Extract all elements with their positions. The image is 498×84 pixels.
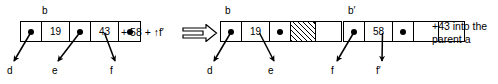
node-b-prime-pointer-1 [393, 22, 414, 41]
pointer-dot-icon [351, 29, 357, 35]
pointer-dot-icon [77, 29, 83, 35]
node-b-pointer-1 [70, 22, 91, 41]
node-b-pointer-0 [21, 22, 42, 41]
annotation-insert-58: + 58 + ↑f′ [121, 26, 164, 39]
node-b-after: 19 [220, 21, 342, 42]
leaf-label-f: f [110, 66, 113, 76]
leaf-label-d: d [7, 66, 13, 76]
double-right-arrow-icon [182, 24, 218, 46]
annotation-promote-43-line2: parent a [432, 33, 471, 46]
annotation-promote-43-line1: +43 into the [432, 20, 487, 33]
pointer-arrows [0, 0, 498, 84]
node-b-key-0: 19 [42, 22, 70, 41]
leaf-label-f-after: f [331, 66, 334, 76]
node-label-b-after: b [225, 6, 231, 16]
node-b-after-hatched-slot [291, 22, 316, 41]
pointer-dot-icon [400, 29, 406, 35]
node-label-b: b [42, 6, 48, 16]
leaf-label-f-prime: f′ [376, 66, 381, 76]
node-b-prime-key-0: 58 [365, 22, 393, 41]
node-b-after-key-0: 19 [242, 22, 270, 41]
node-b-after-pointer-1 [270, 22, 291, 41]
node-b-after-empty-slot [316, 22, 341, 41]
node-b-after-pointer-0 [221, 22, 242, 41]
node-b-prime-pointer-0 [344, 22, 365, 41]
leaf-label-e-after: e [268, 66, 274, 76]
node-b-key-1: 43 [91, 22, 119, 41]
pointer-dot-icon [28, 29, 34, 35]
leaf-label-d-after: d [207, 66, 213, 76]
node-label-b-prime: b′ [348, 6, 355, 16]
pointer-dot-icon [228, 29, 234, 35]
btree-split-diagram: b 19 43 d e f + 58 + ↑f′ b [0, 0, 498, 84]
leaf-label-e: e [52, 66, 58, 76]
pointer-dot-icon [277, 29, 283, 35]
